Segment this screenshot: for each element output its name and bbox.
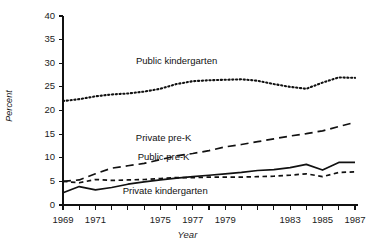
x-axis-ticks [63,205,355,210]
series-label-public-kindergarten: Public kindergarten [136,55,217,66]
series-label-private-kindergarten: Private kindergarten [123,185,208,196]
x-tick-label: 1971 [75,214,115,225]
series-line-private-kindergarten [63,172,355,183]
y-tick-label: 20 [31,104,55,115]
y-tick-label: 40 [31,10,55,21]
y-tick-label: 30 [31,57,55,68]
series-label-public-pre-k: Public pre-K [138,151,190,162]
y-tick-label: 0 [31,199,55,210]
y-tick-label: 15 [31,128,55,139]
y-tick-label: 5 [31,175,55,186]
series-line-private-pre-k [63,122,355,181]
y-tick-label: 35 [31,33,55,44]
y-tick-label: 25 [31,80,55,91]
y-axis-ticks [59,16,63,205]
chart-figure: Percent Year 0510152025303540 1969197119… [0,0,375,249]
series-label-private-pre-k: Private pre-K [136,132,191,143]
series-line-public-kindergarten [63,77,355,101]
x-tick-label: 1979 [205,214,245,225]
x-tick-label: 1987 [335,214,375,225]
y-tick-label: 10 [31,151,55,162]
plot-area [0,0,375,249]
